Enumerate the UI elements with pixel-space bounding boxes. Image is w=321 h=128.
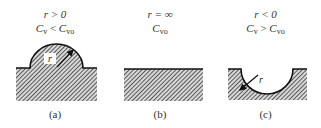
radius-label: r [48,53,52,64]
caption-a: (a) [0,108,110,120]
radius-label: r [259,74,263,85]
caption-b: (b) [105,108,215,120]
panel-a: r > 0 Cv < Cvo r (a) [0,0,110,128]
caption-c: (c) [210,108,321,120]
panel-b: r = ∞ Cvo (b) [105,0,215,128]
panel-c: r < 0 Cv > Cvo r (c) [210,0,321,128]
